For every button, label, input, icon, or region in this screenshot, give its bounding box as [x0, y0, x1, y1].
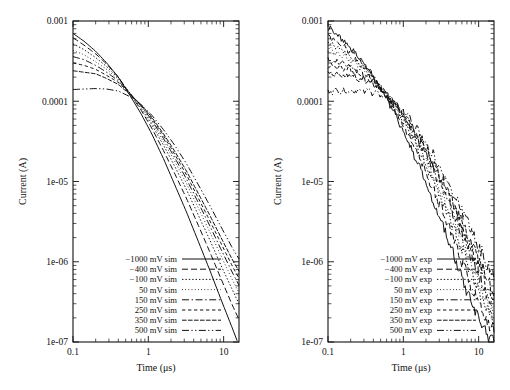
- y-tick-label: 1e-06: [46, 257, 68, 267]
- legend-label: 500 mV sim: [135, 325, 178, 335]
- legend-label: 500 mV exp: [390, 325, 432, 335]
- legend-label: 150 mV sim: [135, 295, 178, 305]
- data-curve: [73, 71, 239, 272]
- plot-canvas-experiment: 0.1110Time (μs)0.0010.00011e-051e-061e-0…: [255, 0, 510, 390]
- y-tick-label: 1e-05: [301, 177, 323, 187]
- legend-label: −100 mV exp: [385, 274, 432, 284]
- y-tick-label: 0.0001: [297, 97, 323, 107]
- y-tick-label: 0.001: [47, 16, 69, 26]
- x-tick-label: 0.1: [67, 347, 79, 357]
- legend-label: 250 mV sim: [135, 305, 178, 315]
- legend-label: −1000 mV exp: [381, 254, 432, 264]
- data-curve: [328, 88, 494, 280]
- x-tick-label: 10: [474, 347, 484, 357]
- legend-label: −400 mV sim: [130, 264, 178, 274]
- legend-label: 50 mV sim: [139, 285, 177, 295]
- data-curve: [73, 89, 239, 260]
- panel-simulation: 0.1110Time (μs)0.0010.00011e-051e-061e-0…: [0, 0, 255, 390]
- y-tick-label: 1e-07: [301, 337, 323, 347]
- x-tick-label: 1: [146, 347, 151, 357]
- legend-label: 150 mV exp: [390, 295, 432, 305]
- legend-label: 350 mV sim: [135, 315, 178, 325]
- data-curve: [73, 63, 239, 278]
- legend-label: −100 mV sim: [130, 274, 178, 284]
- y-tick-label: 1e-07: [46, 337, 68, 347]
- y-tick-label: 0.0001: [42, 97, 68, 107]
- legend-label: 50 mV exp: [394, 285, 432, 295]
- y-axis-label: Current (A): [272, 158, 284, 205]
- y-tick-label: 1e-05: [46, 177, 68, 187]
- legend-label: −1000 mV sim: [126, 254, 178, 264]
- y-tick-label: 0.001: [302, 16, 324, 26]
- legend-label: 250 mV exp: [390, 305, 432, 315]
- panel-experiment: 0.1110Time (μs)0.0010.00011e-051e-061e-0…: [255, 0, 510, 390]
- legend-label: −400 mV exp: [385, 264, 432, 274]
- plot-canvas-simulation: 0.1110Time (μs)0.0010.00011e-051e-061e-0…: [0, 0, 255, 390]
- legend-label: 350 mV exp: [390, 315, 432, 325]
- x-tick-label: 10: [219, 347, 229, 357]
- x-axis-label: Time (μs): [391, 362, 430, 374]
- x-tick-label: 1: [401, 347, 406, 357]
- x-axis-label: Time (μs): [136, 362, 175, 374]
- y-axis-label: Current (A): [17, 158, 29, 205]
- figure-container: 0.1110Time (μs)0.0010.00011e-051e-061e-0…: [0, 0, 510, 390]
- x-tick-label: 0.1: [322, 347, 334, 357]
- y-tick-label: 1e-06: [301, 257, 323, 267]
